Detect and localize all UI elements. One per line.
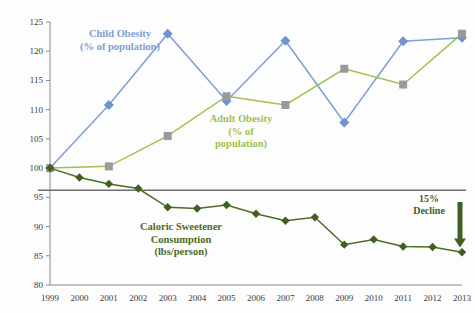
data-point bbox=[164, 132, 172, 140]
x-tick-label: 2013 bbox=[453, 293, 472, 303]
data-point bbox=[399, 242, 407, 250]
data-point bbox=[164, 203, 172, 211]
data-point bbox=[458, 30, 466, 38]
data-point bbox=[370, 235, 378, 243]
y-tick-label: 105 bbox=[30, 134, 44, 144]
x-tick-label: 2009 bbox=[335, 293, 354, 303]
x-tick-label: 2012 bbox=[424, 293, 442, 303]
y-tick-label: 100 bbox=[30, 163, 44, 173]
data-point bbox=[105, 162, 113, 170]
x-tick-label: 2002 bbox=[129, 293, 147, 303]
y-tick-label: 90 bbox=[34, 222, 44, 232]
x-tick-label: 1999 bbox=[41, 293, 60, 303]
data-point bbox=[458, 248, 466, 256]
y-tick-label: 120 bbox=[30, 46, 44, 56]
data-point bbox=[105, 180, 113, 188]
data-point bbox=[75, 173, 83, 181]
data-point bbox=[223, 92, 231, 100]
y-tick-label: 80 bbox=[34, 280, 44, 290]
y-tick-label: 125 bbox=[30, 17, 44, 27]
x-tick-label: 2000 bbox=[70, 293, 89, 303]
data-point bbox=[222, 201, 230, 209]
data-point bbox=[339, 118, 349, 128]
y-tick-label: 110 bbox=[30, 105, 44, 115]
data-point bbox=[134, 184, 142, 192]
data-point bbox=[252, 209, 260, 217]
x-tick-label: 2001 bbox=[100, 293, 118, 303]
data-point bbox=[340, 65, 348, 73]
data-point bbox=[399, 81, 407, 89]
x-tick-label: 2011 bbox=[394, 293, 412, 303]
x-tick-label: 2005 bbox=[218, 293, 237, 303]
data-point bbox=[281, 101, 289, 109]
x-tick-label: 2003 bbox=[159, 293, 178, 303]
data-point bbox=[193, 204, 201, 212]
x-tick-label: 2010 bbox=[365, 293, 384, 303]
x-tick-label: 2007 bbox=[276, 293, 295, 303]
y-tick-label: 115 bbox=[30, 75, 44, 85]
data-point bbox=[398, 36, 408, 46]
decline-arrow-icon bbox=[454, 202, 466, 247]
y-tick-label: 85 bbox=[34, 251, 44, 261]
data-point bbox=[281, 217, 289, 225]
data-point bbox=[428, 243, 436, 251]
y-tick-label: 95 bbox=[34, 192, 44, 202]
x-tick-label: 2008 bbox=[306, 293, 325, 303]
chart-svg: 8085909510010511011512012519992000200120… bbox=[0, 0, 475, 313]
chart-container: 8085909510010511011512012519992000200120… bbox=[0, 0, 475, 313]
x-tick-label: 2004 bbox=[188, 293, 207, 303]
x-tick-label: 2006 bbox=[247, 293, 266, 303]
